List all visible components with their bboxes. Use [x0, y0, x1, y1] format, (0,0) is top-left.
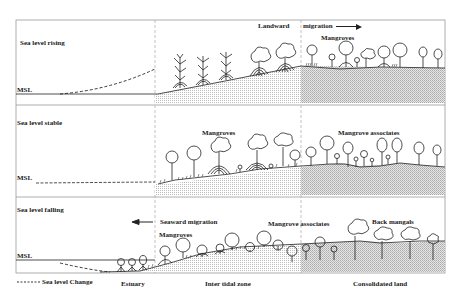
- zone-intertidal: Inter tidal zone: [205, 281, 251, 288]
- panel-rising: [16, 41, 445, 103]
- panel-rising-mangroves: Mangroves: [321, 35, 354, 42]
- panel-stable-mangrove-associates: Mangrove associates: [338, 130, 400, 137]
- migration-label: migration: [303, 23, 333, 30]
- panel-falling: [16, 219, 445, 272]
- panel-falling-mangroves: Mangroves: [159, 232, 192, 239]
- panel-stable-mangroves: Mangroves: [202, 130, 235, 137]
- seaward-migration-label: Seaward migration: [160, 219, 217, 226]
- mangrove-migration-diagram: [0, 0, 460, 298]
- zone-estuary: Estuary: [121, 281, 145, 288]
- panel-falling-title: Sea level falling: [17, 207, 64, 214]
- panel-falling-mangrove-associates: Mangrove associates: [268, 221, 330, 228]
- landward-arrow-head: [356, 24, 362, 30]
- zone-consolidated: Consolidated land: [353, 281, 407, 288]
- panel-rising-title: Sea level rising: [20, 40, 65, 47]
- panel-rising-msl: MSL: [17, 87, 32, 94]
- panel-falling-msl: MSL: [17, 253, 32, 260]
- back-mangals-label: Back mangals: [372, 219, 414, 226]
- panel-stable: [36, 133, 445, 195]
- landward-arrow-icon: [336, 26, 358, 27]
- panel-stable-msl: MSL: [17, 175, 32, 182]
- landward-label: Landward: [258, 23, 290, 30]
- panel-stable-title: Sea level stable: [17, 120, 62, 127]
- legend-sea-level-change: Sea level Change: [42, 279, 93, 286]
